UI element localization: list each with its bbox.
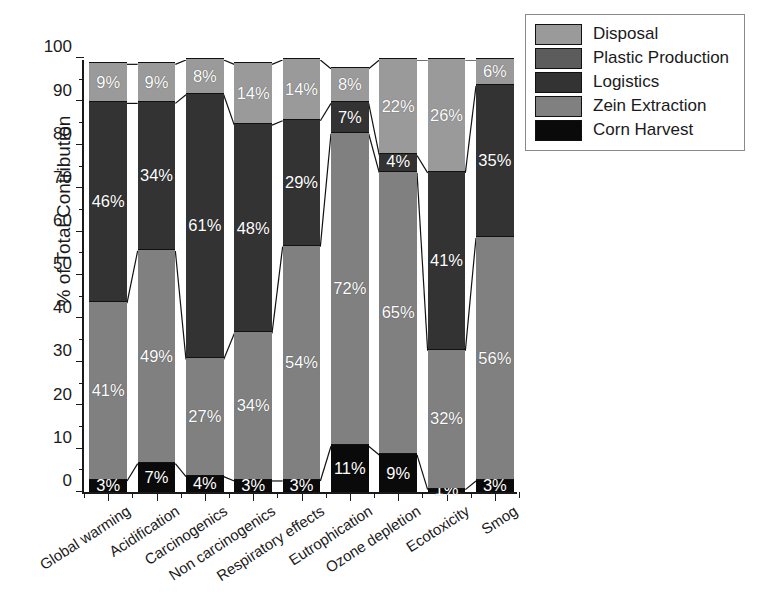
segment-zein-extraction[interactable]: 72% xyxy=(331,132,369,444)
segment-value-label: 7% xyxy=(145,469,169,486)
segment-value-label: 34% xyxy=(237,397,270,414)
stack-connector-line xyxy=(417,455,428,490)
x-category-label-acidification: Acidification xyxy=(173,502,182,516)
x-category-label-respiratory-effects: Respiratory effects xyxy=(318,502,327,516)
y-tick xyxy=(79,122,84,123)
segment-zein-extraction[interactable]: 49% xyxy=(138,249,176,462)
x-category-label-non-carcinogenics: Non carcinogenics xyxy=(269,502,278,516)
segment-value-label: 8% xyxy=(193,68,217,85)
y-tick-label: 10 xyxy=(53,428,72,448)
y-tick xyxy=(79,252,84,253)
bar-smog[interactable]: 3%56%35%6% xyxy=(476,60,514,492)
stack-connector-line xyxy=(369,446,380,455)
x-tick-minor xyxy=(471,492,472,498)
segment-logistics[interactable]: 41% xyxy=(428,171,466,349)
y-tick xyxy=(76,448,84,449)
bar-ecotoxicity[interactable]: 1%32%41%26% xyxy=(428,60,466,492)
legend-swatch-icon xyxy=(535,96,582,117)
legend-label: Logistics xyxy=(593,72,659,92)
segment-value-label: 41% xyxy=(92,382,125,399)
segment-logistics[interactable]: 35% xyxy=(476,84,514,236)
segment-zein-extraction[interactable]: 41% xyxy=(89,301,127,479)
y-tick-label: 40 xyxy=(53,298,72,318)
segment-logistics[interactable]: 7% xyxy=(331,101,369,131)
segment-corn-harvest[interactable]: 11% xyxy=(331,444,369,492)
segment-disposal[interactable]: 26% xyxy=(428,58,466,171)
x-tick-minor xyxy=(181,492,182,498)
legend-swatch-icon xyxy=(535,24,582,45)
legend-swatch-icon xyxy=(535,72,582,93)
segment-disposal[interactable]: 14% xyxy=(283,58,321,119)
bar-ozone-depletion[interactable]: 9%65%4%22% xyxy=(379,60,417,492)
x-category-label-ozone-depletion: Ozone depletion xyxy=(414,502,423,516)
segment-logistics[interactable]: 4% xyxy=(379,153,417,170)
segment-value-label: 4% xyxy=(193,475,217,492)
segment-corn-harvest[interactable]: 3% xyxy=(476,479,514,492)
segment-corn-harvest[interactable]: 4% xyxy=(186,475,224,492)
y-tick xyxy=(76,57,84,58)
x-tick-minor xyxy=(132,492,133,498)
stack-connector-line xyxy=(369,60,380,69)
segment-corn-harvest[interactable]: 3% xyxy=(89,479,127,492)
bar-acidification[interactable]: 7%49%34%9% xyxy=(138,60,176,492)
legend-item-corn-harvest[interactable]: Corn Harvest xyxy=(535,118,735,142)
segment-zein-extraction[interactable]: 54% xyxy=(283,245,321,479)
y-tick xyxy=(76,100,84,101)
legend-item-plastic-production[interactable]: Plastic Production xyxy=(535,46,735,70)
segment-corn-harvest[interactable]: 3% xyxy=(283,479,321,492)
segment-zein-extraction[interactable]: 27% xyxy=(186,357,224,474)
segment-disposal[interactable]: 14% xyxy=(234,62,272,123)
segment-corn-harvest[interactable]: 3% xyxy=(234,479,272,492)
legend-label: Disposal xyxy=(593,24,658,44)
segment-zein-extraction[interactable]: 34% xyxy=(234,331,272,479)
x-tick-minor xyxy=(374,492,375,498)
segment-zein-extraction[interactable]: 56% xyxy=(476,236,514,479)
segment-value-label: 3% xyxy=(241,477,265,494)
legend-swatch-icon xyxy=(535,48,582,69)
stack-connector-line xyxy=(320,134,331,247)
x-tick-minor xyxy=(326,492,327,498)
y-tick-label: 80 xyxy=(53,124,72,144)
legend-item-logistics[interactable]: Logistics xyxy=(535,70,735,94)
segment-zein-extraction[interactable]: 65% xyxy=(379,171,417,453)
segment-disposal[interactable]: 8% xyxy=(331,67,369,102)
legend-item-disposal[interactable]: Disposal xyxy=(535,22,735,46)
stack-connector-line xyxy=(175,95,186,104)
bar-carcinogenics[interactable]: 4%27%61%8% xyxy=(186,60,224,492)
legend-label: Corn Harvest xyxy=(593,120,693,140)
bar-respiratory-effects[interactable]: 3%54%29%14% xyxy=(283,60,321,492)
segment-disposal[interactable]: 9% xyxy=(89,62,127,101)
x-category-label-smog: Smog xyxy=(511,502,520,516)
segment-logistics[interactable]: 29% xyxy=(283,119,321,245)
segment-value-label: 3% xyxy=(483,477,507,494)
segment-disposal[interactable]: 22% xyxy=(379,58,417,153)
segment-logistics[interactable]: 48% xyxy=(234,123,272,331)
x-category-label-carcinogenics: Carcinogenics xyxy=(221,502,230,516)
y-tick xyxy=(79,383,84,384)
legend-item-zein-extraction[interactable]: Zein Extraction xyxy=(535,94,735,118)
segment-value-label: 34% xyxy=(140,167,173,184)
segment-corn-harvest[interactable]: 9% xyxy=(379,453,417,492)
segment-logistics[interactable]: 34% xyxy=(138,101,176,249)
stack-connector-line xyxy=(465,238,476,351)
segment-logistics[interactable]: 61% xyxy=(186,93,224,358)
segment-zein-extraction[interactable]: 32% xyxy=(428,349,466,488)
segment-corn-harvest[interactable]: 1% xyxy=(428,488,466,492)
y-tick xyxy=(79,296,84,297)
segment-disposal[interactable]: 6% xyxy=(476,58,514,84)
bar-non-carcinogenics[interactable]: 3%34%48%14% xyxy=(234,60,272,492)
bar-global-warming[interactable]: 3%41%46%9% xyxy=(89,60,127,492)
segment-disposal[interactable]: 9% xyxy=(138,62,176,101)
segment-value-label: 72% xyxy=(333,280,366,297)
segment-corn-harvest[interactable]: 7% xyxy=(138,462,176,492)
stack-connector-line xyxy=(417,155,428,172)
y-tick xyxy=(79,166,84,167)
y-tick-label: 30 xyxy=(53,341,72,361)
segment-logistics[interactable]: 46% xyxy=(89,101,127,301)
bar-eutrophication[interactable]: 11%72%7%8% xyxy=(331,60,369,492)
segment-value-label: 6% xyxy=(483,63,507,80)
segment-disposal[interactable]: 8% xyxy=(186,58,224,93)
stack-connector-line xyxy=(224,95,235,125)
x-tick-major xyxy=(495,492,496,501)
y-tick xyxy=(79,469,84,470)
